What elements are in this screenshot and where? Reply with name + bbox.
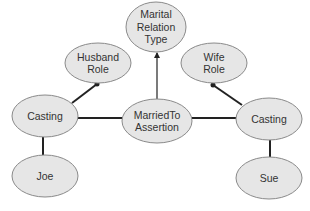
node-label: Sue [260,172,279,184]
node-married-to-assertion[interactable]: MarriedToAssertion [122,99,192,143]
node-husband-role[interactable]: HusbandRole [65,43,131,83]
node-label: Role [203,63,225,75]
node-label: Role [87,63,109,75]
node-label: Relation [137,21,176,33]
semantic-network-diagram: MaritalRelationTypeHusbandRoleWifeRoleCa… [0,0,310,211]
node-label: Casting [27,110,63,122]
node-label: Marital [140,8,172,20]
edge-casting-right-to-wife-role [213,85,242,105]
node-label: Joe [37,170,54,182]
node-label: Casting [251,113,287,125]
edge-casting-left-to-husband-role [72,84,97,103]
node-casting-right[interactable]: Casting [236,98,302,140]
nodes: MaritalRelationTypeHusbandRoleWifeRoleCa… [12,2,302,199]
node-casting-left[interactable]: Casting [12,95,78,137]
node-marital-relation-type[interactable]: MaritalRelationType [126,2,186,52]
node-label: Type [145,33,168,45]
node-wife-role[interactable]: WifeRole [181,43,247,83]
node-label: MarriedTo [134,109,181,121]
node-label: Assertion [135,121,179,133]
node-label: Wife [204,51,225,63]
node-joe[interactable]: Joe [12,155,78,197]
node-label: Husband [77,51,119,63]
node-sue[interactable]: Sue [236,157,302,199]
